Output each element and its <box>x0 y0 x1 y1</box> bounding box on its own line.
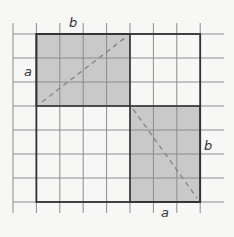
grid-diagram: b a b a <box>0 0 234 237</box>
label-right-b: b <box>204 138 212 153</box>
label-bottom-a: a <box>161 205 169 220</box>
label-top-b: b <box>69 15 77 30</box>
label-left-a: a <box>24 64 32 79</box>
